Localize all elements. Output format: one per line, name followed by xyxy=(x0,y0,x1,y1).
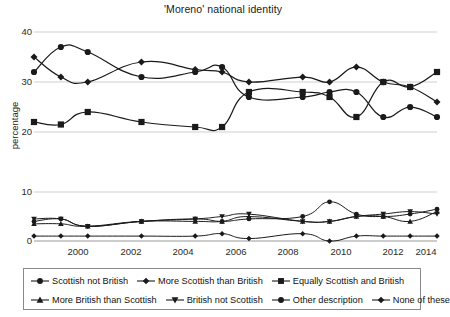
data-point xyxy=(300,89,306,95)
data-point xyxy=(380,79,386,85)
legend-item-scottish-not-british[interactable]: Scottish not British xyxy=(31,276,128,286)
legend-item-label: None of these xyxy=(393,295,450,305)
data-point xyxy=(407,233,412,238)
legend-item-label: More Scottish than British xyxy=(158,276,263,286)
data-point xyxy=(327,199,332,204)
data-point xyxy=(354,233,359,238)
legend-row-bottom: More British than ScottishBritish not Sc… xyxy=(24,290,429,309)
legend-item-more-scottish-than-british[interactable]: More Scottish than British xyxy=(137,276,263,286)
circle-marker-icon xyxy=(272,295,290,305)
data-point xyxy=(219,231,224,236)
legend-item-label: Scottish not British xyxy=(52,276,128,286)
series-more-british-than-scottish xyxy=(31,209,440,229)
data-point xyxy=(85,49,91,55)
diamond-marker-icon xyxy=(137,276,155,286)
legend-item-more-british-than-scottish[interactable]: More British than Scottish xyxy=(31,295,157,305)
data-point xyxy=(407,84,413,90)
data-point xyxy=(58,44,64,50)
data-point xyxy=(381,233,386,238)
legend-item-label: British not Scottish xyxy=(187,295,263,305)
data-point xyxy=(246,89,252,95)
triangle-up-marker-icon xyxy=(31,295,49,305)
legend-item-none-of-these[interactable]: None of these xyxy=(372,295,450,305)
circle-marker-icon xyxy=(31,276,49,286)
data-point xyxy=(246,236,251,241)
data-point xyxy=(300,231,305,236)
data-point xyxy=(353,114,359,120)
data-point xyxy=(327,238,332,243)
data-point xyxy=(139,219,144,224)
data-point xyxy=(354,212,359,217)
series-equally-scottish-and-british xyxy=(31,69,440,131)
series-none-of-these xyxy=(31,231,439,244)
data-point xyxy=(32,219,37,224)
legend-item-label: More British than Scottish xyxy=(52,295,157,305)
data-point xyxy=(435,207,440,212)
data-point xyxy=(57,74,64,81)
data-point xyxy=(31,233,36,238)
legend-row-top: Scottish not BritishMore Scottish than B… xyxy=(24,271,429,290)
data-series-layer xyxy=(31,44,441,244)
triangle-down-marker-icon xyxy=(166,295,184,305)
data-point xyxy=(434,99,441,106)
data-point xyxy=(381,214,386,219)
chart-legend: Scottish not BritishMore Scottish than B… xyxy=(23,268,421,310)
data-point xyxy=(245,79,252,86)
data-point xyxy=(139,233,144,238)
data-point xyxy=(434,69,440,75)
data-point xyxy=(31,69,37,75)
data-point xyxy=(326,79,333,86)
data-point xyxy=(138,59,145,66)
data-point xyxy=(219,69,226,76)
data-point xyxy=(326,94,332,100)
data-point xyxy=(85,109,91,115)
data-point xyxy=(58,121,64,127)
data-point xyxy=(299,74,306,81)
data-point xyxy=(219,124,225,130)
data-point xyxy=(58,217,63,222)
legend-item-label: Equally Scottish and British xyxy=(293,276,404,286)
data-point xyxy=(220,219,225,224)
legend-item-british-not-scottish[interactable]: British not Scottish xyxy=(166,295,263,305)
data-point xyxy=(58,233,63,238)
data-point xyxy=(138,119,144,125)
data-point xyxy=(193,217,198,222)
data-point xyxy=(31,119,37,125)
data-point xyxy=(408,212,413,217)
data-point xyxy=(192,233,197,238)
data-point xyxy=(380,114,386,120)
data-point xyxy=(300,214,305,219)
data-point xyxy=(85,233,90,238)
data-point xyxy=(84,79,91,86)
diamond-marker-icon xyxy=(372,295,390,305)
data-point xyxy=(353,89,359,95)
legend-item-other-description[interactable]: Other description xyxy=(272,295,363,305)
data-point xyxy=(85,224,90,229)
data-point xyxy=(247,217,252,222)
legend-item-equally-scottish-and-british[interactable]: Equally Scottish and British xyxy=(272,276,404,286)
gridlines xyxy=(34,32,437,241)
data-point xyxy=(407,104,413,110)
legend-item-label: Other description xyxy=(293,295,363,305)
data-point xyxy=(353,64,360,71)
data-point xyxy=(434,233,439,238)
data-point xyxy=(434,114,440,120)
series-more-scottish-than-british xyxy=(31,54,441,106)
data-point xyxy=(138,74,144,80)
square-marker-icon xyxy=(272,276,290,286)
data-point xyxy=(192,124,198,130)
